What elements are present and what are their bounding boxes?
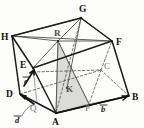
vertex-label-K: K: [66, 84, 73, 94]
edge-H-G: [12, 18, 81, 36]
vector-label-b-text: b: [101, 104, 105, 114]
vertex-label-A: A: [52, 117, 59, 127]
vertex-label-H: H: [1, 32, 9, 42]
vertex-label-B: B: [132, 92, 139, 102]
vertex-label-G: G: [79, 4, 87, 14]
vertex-label-C: C: [104, 61, 110, 71]
vertex-label-R: R: [54, 28, 61, 38]
figure-canvas: G H F R E C K D B Q P A e d b: [0, 0, 144, 128]
vertex-label-D: D: [6, 89, 13, 99]
vector-label-d-text: d: [15, 115, 20, 125]
vector-label-d: d: [14, 115, 21, 125]
dot-R: [57, 40, 59, 42]
dot-G: [80, 17, 83, 20]
dot-A: [55, 112, 57, 114]
edge-C-P: [89, 70, 101, 104]
vertex-label-P: P: [85, 103, 90, 113]
edge-E-F-top: [33, 41, 112, 68]
edge-G-F: [81, 18, 112, 41]
vertex-label-Q: Q: [30, 103, 37, 113]
edge-F-B: [112, 41, 129, 96]
geometry-figure: G H F R E C K D B Q P A e d b: [0, 0, 144, 128]
edge-H-D: [12, 36, 20, 94]
vertex-label-F: F: [116, 37, 122, 47]
vertex-label-E: E: [20, 60, 26, 70]
vector-label-b: b: [100, 104, 107, 114]
vector-label-e-text: e: [24, 76, 28, 86]
